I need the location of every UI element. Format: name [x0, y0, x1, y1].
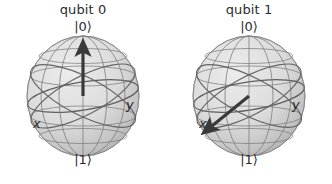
ket-label-one-qubit-1: |1⟩	[166, 152, 332, 167]
bloch-panel-qubit-0: qubit 0 |0⟩	[0, 0, 166, 184]
axis-label-y-qubit-0: y	[126, 97, 134, 112]
panel-title-qubit-1: qubit 1	[166, 2, 332, 17]
axis-label-x-qubit-1: x	[199, 116, 207, 131]
bloch-panel-qubit-1: qubit 1 |0⟩	[166, 0, 332, 184]
bloch-sphere-figure: qubit 0 |0⟩	[0, 0, 332, 184]
axis-label-x-qubit-0: x	[33, 116, 41, 131]
ket-label-one-qubit-0: |1⟩	[0, 152, 166, 167]
panel-title-qubit-0: qubit 0	[0, 2, 166, 17]
ket-label-zero-qubit-0: |0⟩	[0, 19, 166, 34]
axis-label-y-qubit-1: y	[292, 97, 300, 112]
ket-label-zero-qubit-1: |0⟩	[166, 19, 332, 34]
